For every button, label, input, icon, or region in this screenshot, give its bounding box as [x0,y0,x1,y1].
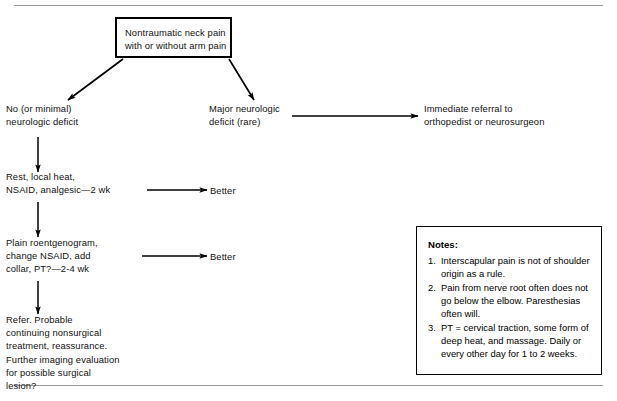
node-root-label: Nontraumatic neck pain with or without a… [117,19,230,52]
node-rest-treatment: Rest, local heat, NSAID, analgesic—2 wk [6,170,156,196]
note-item: 3.PT = cervical traction, some form of d… [428,321,593,361]
node-better-1: Better [210,184,270,197]
edge-root-to-major-deficit [229,59,254,100]
notes-list: 1.Interscapular pain is not of shoulder … [428,254,593,361]
note-text: Pain from nerve root often does not go b… [441,281,593,321]
note-number: 1. [428,254,441,280]
note-number: 2. [428,281,441,321]
note-text: PT = cervical traction, some form of dee… [441,321,593,361]
node-better-2: Better [210,250,270,263]
note-text: Interscapular pain is not of shoulder or… [441,254,593,280]
note-number: 3. [428,321,441,361]
node-root-box: Nontraumatic neck pain with or without a… [115,17,232,58]
node-major-deficit: Major neurologic deficit (rare) [209,102,319,128]
node-no-deficit: No (or minimal) neurologic deficit [6,102,136,128]
node-refer-block: Refer. Probable continuing nonsurgical t… [6,313,191,392]
node-immediate-referral: Immediate referral to orthopedist or neu… [424,102,614,128]
flowchart-page: Nontraumatic neck pain with or without a… [0,0,617,401]
node-roentgenogram: Plain roentgenogram, change NSAID, add c… [6,236,156,276]
edge-root-to-no-deficit [68,59,123,100]
notes-box: Notes: 1.Interscapular pain is not of sh… [416,226,602,375]
top-divider-rule [14,5,603,6]
note-item: 2.Pain from nerve root often does not go… [428,281,593,321]
note-item: 1.Interscapular pain is not of shoulder … [428,254,593,280]
notes-title: Notes: [428,238,593,251]
